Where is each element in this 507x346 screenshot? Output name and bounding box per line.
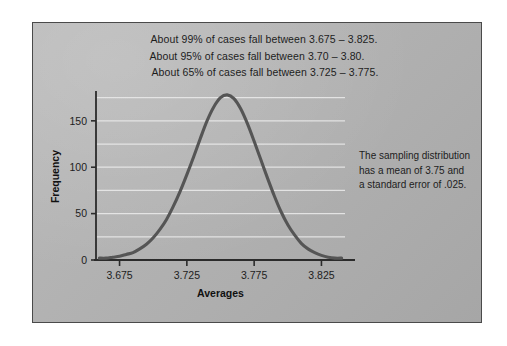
x-axis-title: Averages xyxy=(197,287,244,299)
figure-panel: About 99% of cases fall between 3.675 – … xyxy=(32,22,482,323)
y-tick-label-150: 150 xyxy=(69,115,87,127)
y-tick-label-100: 100 xyxy=(69,161,87,173)
axes-group xyxy=(94,91,355,260)
x-tick-label-3.825: 3.825 xyxy=(308,269,334,281)
bell-curve-group xyxy=(99,95,341,258)
bell-curve-path xyxy=(99,95,341,258)
side-note-block: The sampling distribution has a mean of … xyxy=(359,149,482,193)
annotation-block: About 99% of cases fall between 3.675 – … xyxy=(33,31,481,81)
x-tick-label-3.775: 3.775 xyxy=(241,269,267,281)
tick-marks-group xyxy=(91,121,321,266)
annotation-line-65: About 65% of cases fall between 3.725 – … xyxy=(33,64,481,81)
side-note-line-2: has a mean of 3.75 and xyxy=(359,164,482,179)
y-tick-label-50: 50 xyxy=(75,207,87,219)
side-note-line-1: The sampling distribution xyxy=(359,149,482,164)
y-axis-title: Frequency xyxy=(49,150,61,203)
x-tick-label-3.675: 3.675 xyxy=(106,269,132,281)
x-tick-label-3.725: 3.725 xyxy=(174,269,200,281)
annotation-line-95: About 95% of cases fall between 3.70 – 3… xyxy=(33,48,481,65)
side-note-line-3: a standard error of .025. xyxy=(359,178,482,193)
annotation-line-99: About 99% of cases fall between 3.675 – … xyxy=(33,31,481,48)
tick-labels-group: 0501001503.6753.7253.7753.825 xyxy=(69,115,334,281)
gridlines-group xyxy=(96,98,345,237)
y-tick-label-0: 0 xyxy=(81,254,87,266)
